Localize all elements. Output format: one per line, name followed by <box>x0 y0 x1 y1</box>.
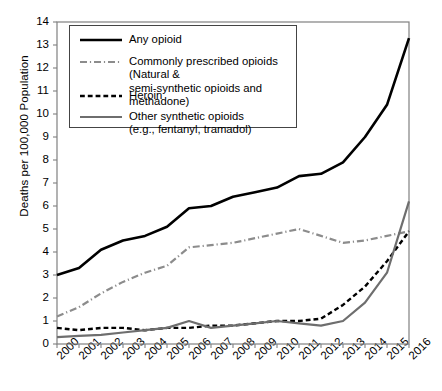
legend-label: Heroin <box>129 89 162 102</box>
series-line-commonly-prescribed-opioids <box>57 229 409 316</box>
legend-swatch-glyph <box>79 89 123 103</box>
chart-legend: Any opioidCommonly prescribed opioids (N… <box>69 25 297 128</box>
legend-swatch-glyph <box>79 33 123 47</box>
legend-line-swatch-icon <box>79 55 123 69</box>
legend-line-swatch-icon <box>79 110 123 124</box>
legend-line-swatch-icon <box>79 89 123 103</box>
legend-item: Any opioid <box>79 33 182 47</box>
legend-line-swatch-icon <box>79 33 123 47</box>
legend-item: Heroin <box>79 89 162 103</box>
legend-label: Other synthetic opioids (e.g., fentanyl,… <box>129 110 251 137</box>
legend-label: Any opioid <box>129 33 182 46</box>
legend-item: Other synthetic opioids (e.g., fentanyl,… <box>79 110 251 137</box>
opioid-overdose-death-rate-chart: Deaths per 100,000 Population 0123456789… <box>0 0 442 391</box>
legend-swatch-glyph <box>79 110 123 124</box>
legend-swatch-glyph <box>79 55 123 69</box>
series-line-other-synthetic-opioids <box>57 201 409 337</box>
